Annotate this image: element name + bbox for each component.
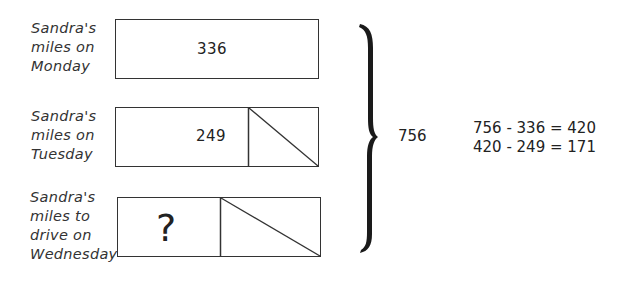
equation-1: 756 - 336 = 420	[473, 119, 596, 138]
diagonal-tuesday	[249, 108, 318, 166]
total-value: 756	[398, 127, 427, 145]
diagonal-wednesday	[221, 198, 320, 256]
equation-2: 420 - 249 = 171	[473, 138, 596, 157]
curly-brace-icon	[359, 24, 378, 253]
equations: 756 - 336 = 420 420 - 249 = 171	[473, 119, 596, 157]
